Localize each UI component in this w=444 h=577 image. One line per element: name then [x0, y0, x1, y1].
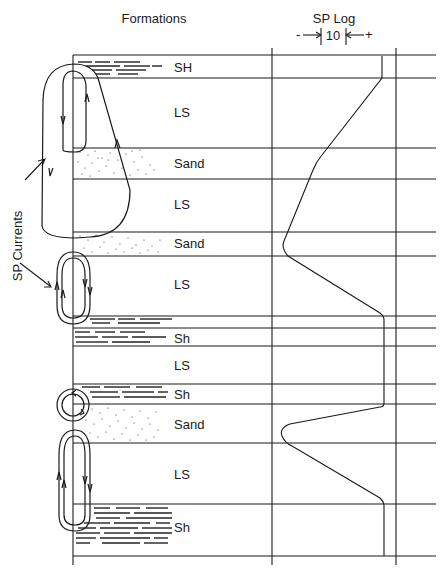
sp-current-loop-lower [57, 430, 92, 531]
sp-log-diagram: Formations SP Log - 10 + [0, 0, 444, 577]
sand-pattern-3 [85, 407, 158, 440]
layer-label-sand-1: Sand [174, 156, 204, 171]
shale-pattern-mid [75, 332, 166, 342]
layer-label-ls-5: LS [174, 467, 190, 482]
formations-title: Formations [121, 11, 187, 26]
sp-log-title: SP Log [313, 11, 355, 26]
layer-label-sh-4: Sh [174, 520, 190, 535]
scale-value: 10 [326, 28, 340, 43]
sp-log-curve [281, 56, 384, 556]
scale-minus-sign: - [296, 27, 300, 42]
layer-label-ls-2: LS [174, 197, 190, 212]
sp-current-loop-upper-large [42, 64, 130, 238]
sand-pattern-1 [77, 149, 154, 176]
shale-pattern-thin [90, 319, 172, 323]
scale-plus-sign: + [365, 27, 373, 42]
shale-pattern-lower [82, 387, 168, 397]
formation-boundaries [73, 55, 436, 556]
arrow-down-icon [49, 168, 53, 176]
layer-label-sh-3: Sh [174, 387, 190, 402]
sp-currents-label: SP Currents [10, 210, 25, 281]
layer-label-sand-3: Sand [174, 417, 204, 432]
sp-scale-indicator: - 10 + [296, 27, 373, 45]
pointer-arrow-upper [25, 160, 44, 180]
layer-label-sand-2: Sand [174, 236, 204, 251]
layer-label-ls-1: LS [174, 105, 190, 120]
layer-label-sh-2: Sh [174, 331, 190, 346]
layer-label-ls-4: LS [174, 358, 190, 373]
layer-label-sh-1: SH [174, 60, 192, 75]
layer-label-ls-3: LS [174, 277, 190, 292]
